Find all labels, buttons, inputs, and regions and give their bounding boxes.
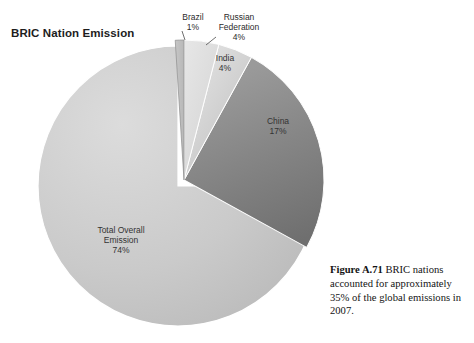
figure-caption: Figure A.71 BRIC nations accounted for a… bbox=[330, 263, 470, 318]
pie-label-india: India4% bbox=[206, 53, 244, 73]
pie-label-russian-federation: RussianFederation4% bbox=[206, 12, 272, 42]
figure-container: BRIC Nation Emission bbox=[0, 0, 474, 343]
leader-line-brazil bbox=[182, 31, 185, 40]
pie-label-china: China17% bbox=[256, 116, 300, 136]
figure-number: Figure A.71 bbox=[330, 264, 383, 275]
pie-label-total-overall-emission: Total OverallEmission74% bbox=[84, 225, 158, 255]
